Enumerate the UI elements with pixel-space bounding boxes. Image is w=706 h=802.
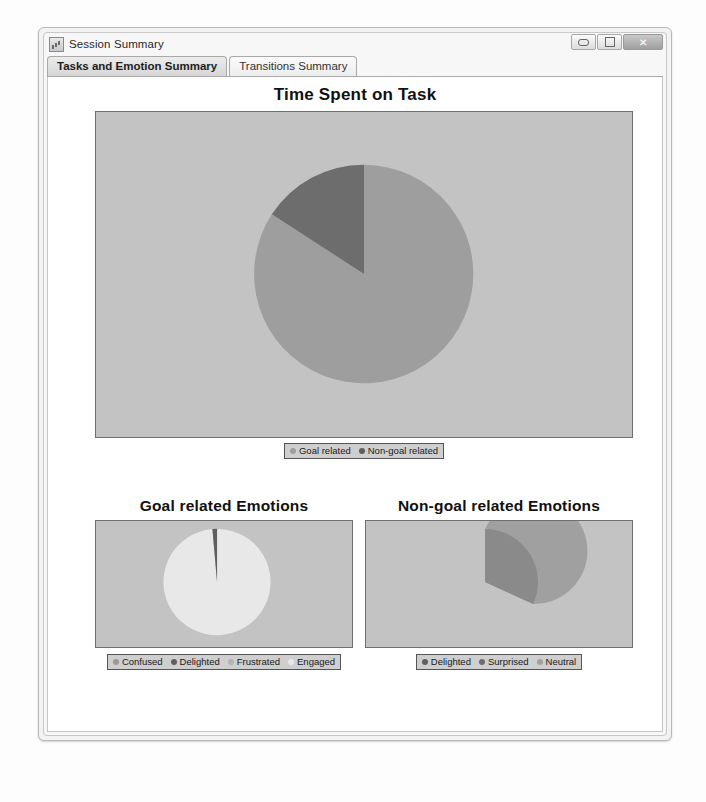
goal-related-emotions-title: Goal related Emotions [95,497,353,515]
legend-item-frustrated[interactable]: Frustrated [228,656,280,668]
goal-related-emotions-pie [96,521,352,647]
legend-item-delighted[interactable]: Delighted [171,656,220,668]
window-title: Session Summary [69,38,164,50]
time-spent-on-task-chart [95,111,633,438]
maximize-icon [605,37,615,47]
non-goal-related-legend-wrap: Delighted Surprised Neutral [365,654,633,670]
goal-related-emotions-section: Goal related Emotions [95,497,353,670]
legend-item-delighted-ng[interactable]: Delighted [422,656,471,668]
legend-swatch-engaged [288,659,294,665]
legend-label-non-goal-related: Non-goal related [368,445,438,457]
legend-item-goal-related[interactable]: Goal related [290,445,351,457]
close-button[interactable]: ✕ [623,34,663,50]
legend-item-surprised[interactable]: Surprised [479,656,529,668]
legend-label-delighted-ng: Delighted [431,656,471,668]
tab-transitions-summary[interactable]: Transitions Summary [229,56,357,76]
legend-label-surprised: Surprised [488,656,529,668]
legend-label-engaged: Engaged [297,656,335,668]
main-chart-title: Time Spent on Task [48,85,662,105]
minimize-icon [578,39,589,46]
legend-swatch-neutral [537,659,543,665]
legend-item-neutral[interactable]: Neutral [537,656,577,668]
non-goal-related-emotions-legend: Delighted Surprised Neutral [416,654,582,670]
legend-swatch-delighted [171,659,177,665]
minimize-button[interactable] [571,34,596,50]
goal-related-legend-wrap: Confused Delighted Frustrated [95,654,353,670]
time-spent-on-task-pie [96,112,632,437]
legend-swatch-frustrated [228,659,234,665]
legend-item-confused[interactable]: Confused [113,656,163,668]
tab-tasks-and-emotion-summary[interactable]: Tasks and Emotion Summary [47,56,227,76]
legend-swatch-non-goal-related [359,448,365,454]
maximize-button[interactable] [597,34,622,50]
window-inner-frame: Session Summary ✕ Tasks and Emotion Summ… [43,32,667,736]
non-goal-related-emotions-chart [365,520,633,648]
title-bar: Session Summary ✕ [44,33,666,55]
tab-content-panel: Time Spent on Task Goal related [47,77,663,732]
tab-bar: Tasks and Emotion Summary Transitions Su… [47,56,663,77]
legend-swatch-delighted-ng [422,659,428,665]
non-goal-related-emotions-title: Non-goal related Emotions [365,497,633,515]
legend-label-confused: Confused [122,656,163,668]
window-controls: ✕ [571,34,663,50]
goal-related-emotions-legend: Confused Delighted Frustrated [107,654,341,670]
legend-label-goal-related: Goal related [299,445,351,457]
legend-label-delighted: Delighted [180,656,220,668]
legend-label-frustrated: Frustrated [237,656,280,668]
legend-item-non-goal-related[interactable]: Non-goal related [359,445,438,457]
goal-related-emotions-chart [95,520,353,648]
application-window: Session Summary ✕ Tasks and Emotion Summ… [38,27,672,741]
time-spent-on-task-legend: Goal related Non-goal related [284,443,444,459]
legend-swatch-goal-related [290,448,296,454]
legend-swatch-surprised [479,659,485,665]
non-goal-related-emotions-section: Non-goal related Emotions [365,497,633,670]
scanned-page-background: Session Summary ✕ Tasks and Emotion Summ… [0,0,706,802]
non-goal-related-emotions-pie [366,521,632,647]
legend-swatch-confused [113,659,119,665]
main-chart-legend-wrap: Goal related Non-goal related [95,443,633,459]
legend-item-engaged[interactable]: Engaged [288,656,335,668]
legend-label-neutral: Neutral [546,656,577,668]
chart-app-icon [49,37,64,52]
